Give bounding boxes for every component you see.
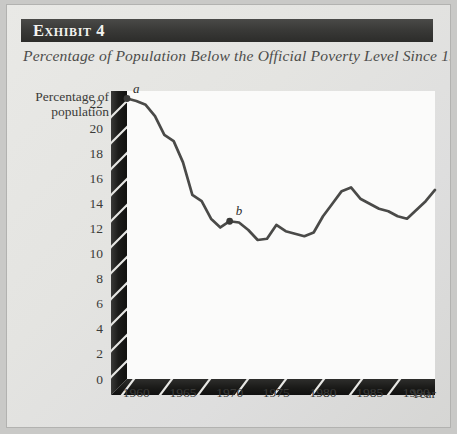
- data-point-marker-a: [124, 95, 131, 102]
- y-tick-12: 12: [69, 222, 103, 236]
- x-tick-1960: 1960: [113, 386, 159, 400]
- chart-plot-region: Percentage of population Year 0246810121…: [7, 75, 451, 428]
- exhibit-subtitle: Percentage of Population Below the Offic…: [23, 47, 443, 65]
- y-tick-18: 18: [69, 147, 103, 161]
- y-tick-6: 6: [69, 297, 103, 311]
- exhibit-header-bar: Exhibit 4: [21, 19, 433, 42]
- plot-area-background: [127, 91, 435, 379]
- x-tick-1985: 1985: [347, 386, 393, 400]
- y-tick-8: 8: [69, 272, 103, 286]
- y-tick-0: 0: [69, 373, 103, 387]
- exhibit-figure: Exhibit 4 Percentage of Population Below…: [6, 4, 451, 428]
- data-point-marker-b: [226, 218, 233, 225]
- y-tick-10: 10: [69, 247, 103, 261]
- point-label-b: b: [236, 204, 243, 217]
- y-tick-22: 22: [69, 97, 103, 111]
- y-tick-16: 16: [69, 172, 103, 186]
- y-tick-4: 4: [69, 322, 103, 336]
- x-tick-1965: 1965: [160, 386, 206, 400]
- x-tick-1970: 1970: [207, 386, 253, 400]
- x-tick-1975: 1975: [253, 386, 299, 400]
- point-label-a: a: [133, 82, 140, 95]
- y-tick-14: 14: [69, 197, 103, 211]
- y-tick-20: 20: [69, 122, 103, 136]
- exhibit-header-label: Exhibit 4: [33, 21, 105, 41]
- x-tick-1990: 1990: [393, 386, 439, 400]
- x-tick-1980: 1980: [300, 386, 346, 400]
- y-tick-2: 2: [69, 347, 103, 361]
